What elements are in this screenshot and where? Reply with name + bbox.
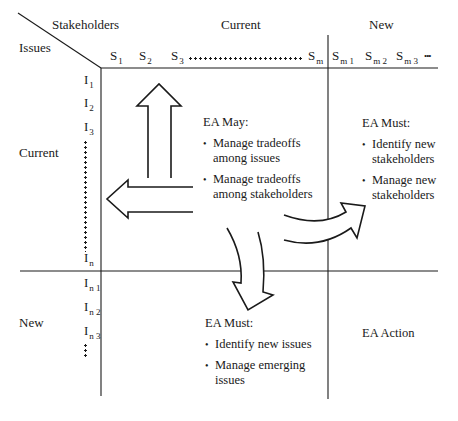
new-issue-label: In 1: [84, 275, 101, 292]
issues-stakeholders-matrix-diagram: Stakeholders Issues Current New S1 S2 S3…: [0, 0, 458, 421]
issue-label: In: [84, 250, 94, 267]
curved-right-arrow-icon: [284, 203, 365, 243]
column-group-current: Current: [221, 17, 261, 32]
issue-label: I3: [84, 119, 94, 136]
quadrant-item: Identify new issues: [205, 337, 325, 352]
quadrant-item: Manage new stakeholders: [362, 173, 458, 203]
up-arrow-icon: [137, 84, 181, 178]
quadrant-item: Identify new stakeholders: [362, 137, 458, 167]
issues-axis-title: Issues: [19, 40, 51, 55]
quadrant-item: Manage tradeoffs among issues: [203, 136, 333, 166]
issue-ellipsis: [84, 140, 87, 252]
row-group-current: Current: [19, 145, 59, 160]
quadrant-current-current: EA May: Manage tradeoffs among issues Ma…: [203, 115, 333, 208]
curved-down-arrow-icon: [227, 228, 273, 310]
quadrant-heading: EA Must:: [362, 116, 458, 131]
new-stakeholder-label: Sm 2: [365, 48, 387, 65]
stakeholder-ellipsis: [188, 57, 304, 60]
stakeholder-label: S3: [171, 48, 184, 65]
quadrant-item: Manage tradeoffs among stakeholders: [203, 172, 333, 202]
quadrant-heading: EA May:: [203, 115, 333, 130]
new-issue-ellipsis: [84, 343, 87, 359]
stakeholders-axis-title: Stakeholders: [52, 17, 119, 32]
issue-label: I1: [84, 72, 94, 89]
quadrant-new-new-heading: EA Action: [362, 326, 414, 341]
new-issue-label: In 2: [84, 299, 101, 316]
new-stakeholder-label: Sm 3: [396, 48, 418, 65]
column-group-new: New: [369, 17, 394, 32]
stakeholder-label: S2: [139, 48, 152, 65]
stakeholder-label: S1: [110, 48, 123, 65]
left-arrow-icon: [107, 180, 193, 218]
quadrant-heading: EA Must:: [205, 316, 325, 331]
quadrant-new-issues-current-stakeholders: EA Must: Identify new issues Manage emer…: [205, 316, 325, 394]
row-group-new: New: [19, 315, 44, 330]
stakeholder-label: Sm: [308, 48, 323, 65]
issue-label: I2: [84, 95, 94, 112]
new-stakeholder-ellipsis: •••: [424, 49, 430, 64]
new-stakeholder-label: Sm 1: [332, 48, 354, 65]
quadrant-item: Manage emerging issues: [205, 358, 325, 388]
new-issue-label: In 3: [84, 323, 101, 340]
quadrant-current-issues-new-stakeholders: EA Must: Identify new stakeholders Manag…: [362, 116, 458, 209]
